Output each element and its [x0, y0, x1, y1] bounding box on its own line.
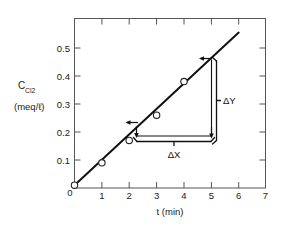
y-tick-label: 0.2 [57, 127, 70, 138]
chart-figure: 0.5 0.4 0.3 0.2 0.1 0 1 2 3 4 5 6 7 t (m… [0, 0, 282, 227]
delta-y-label: ΔY [223, 95, 236, 106]
x-tick-label: 3 [154, 190, 159, 201]
data-point [71, 182, 77, 188]
data-point [99, 160, 105, 166]
x-tick-label: 4 [181, 190, 186, 201]
data-point [126, 137, 132, 143]
y-axis-title-subscript: Cl2 [25, 87, 35, 94]
y-tick-label: 0.5 [57, 43, 70, 54]
x-tick-label: 1 [99, 190, 104, 201]
y-tick-label: 0 [67, 187, 72, 198]
concentration-vs-time-plot: 0.5 0.4 0.3 0.2 0.1 0 1 2 3 4 5 6 7 t (m… [0, 0, 282, 227]
x-tick-label: 2 [127, 190, 132, 201]
y-tick-label: 0.1 [57, 155, 70, 166]
data-point [181, 78, 187, 84]
x-tick-label: 7 [263, 190, 268, 201]
delta-x-label: ΔX [168, 149, 181, 160]
x-tick-label: 5 [209, 190, 214, 201]
y-axis-title-units: (meq/ℓ) [14, 101, 45, 112]
y-tick-label: 0.3 [57, 99, 70, 110]
x-tick-label: 6 [236, 190, 241, 201]
data-point [153, 112, 159, 118]
y-tick-label: 0.4 [57, 71, 70, 82]
x-axis-title: t (min) [157, 206, 184, 217]
